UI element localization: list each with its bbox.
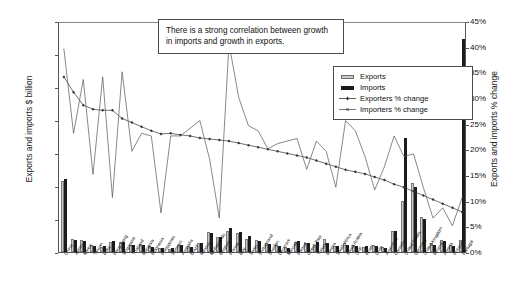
legend-label: Imports (360, 83, 385, 92)
plot-area (58, 22, 466, 253)
data-point-marker (169, 132, 172, 135)
importers-line-icon (339, 106, 356, 113)
data-point-marker (354, 170, 357, 173)
x-axis-labels: ChinaJapanKoreaTaiwanIndiaHong KongSinga… (58, 254, 466, 299)
data-point-marker (393, 183, 396, 186)
data-point-marker (208, 138, 211, 141)
exports-swatch-icon (339, 75, 356, 79)
correlation-note: There is a strong correlation between gr… (158, 19, 344, 54)
y-tickmark-right (466, 150, 469, 151)
y-tickmark-right (466, 22, 469, 23)
y-tickmark-right (466, 202, 469, 203)
lines-layer (59, 23, 465, 252)
data-point-marker (198, 136, 201, 139)
data-point-marker (160, 132, 163, 135)
data-point-marker (296, 154, 299, 157)
data-point-marker (315, 159, 318, 162)
legend-label: Exporters % change (360, 94, 428, 103)
legend-item-importers-change: Importers % change (339, 104, 467, 115)
data-point-marker (247, 144, 250, 147)
legend-label: Importers % change (360, 105, 428, 114)
y-tickmark-right (466, 48, 469, 49)
y-axis-left-title: Exports and imports $ billion (24, 44, 34, 214)
data-point-marker (451, 206, 454, 209)
data-point-marker (140, 125, 143, 128)
legend-label: Exports (360, 72, 386, 81)
chart-legend: Exports Imports Exporters % change Impor… (333, 66, 473, 120)
y-tick-right: 40% (470, 44, 504, 52)
legend-item-imports: Imports (339, 82, 467, 93)
y-tick-right: 25% (470, 121, 504, 129)
data-point-marker (92, 108, 95, 111)
data-point-marker (276, 150, 279, 153)
y-tickmark-right (466, 227, 469, 228)
chart-container: Exports and imports $ billion Exports an… (0, 0, 515, 299)
data-point-marker (189, 134, 192, 137)
data-point-marker (286, 152, 289, 155)
data-point-marker (422, 194, 425, 197)
y-tickmark-right (466, 125, 469, 126)
exporters-line-icon (339, 95, 356, 102)
data-point-marker (461, 210, 464, 213)
y-tick-right: 30% (470, 95, 504, 103)
data-point-marker (325, 162, 328, 165)
legend-item-exporters-change: Exporters % change (339, 93, 467, 104)
data-point-marker (334, 165, 337, 168)
data-point-marker (383, 179, 386, 182)
data-point-marker (402, 186, 405, 189)
y-tick-right: 5% (470, 223, 504, 231)
data-point-marker (432, 198, 435, 201)
data-point-marker (130, 121, 133, 124)
y-tick-right: 45% (470, 18, 504, 26)
data-point-marker (364, 172, 367, 175)
y-tick-right: 10% (470, 198, 504, 206)
legend-item-exports: Exports (339, 71, 467, 82)
data-point-marker (218, 139, 221, 142)
data-point-marker (441, 202, 444, 205)
data-point-marker (101, 109, 104, 112)
data-point-marker (412, 190, 415, 193)
y-tick-right: 0% (470, 249, 504, 257)
data-point-marker (373, 176, 376, 179)
data-point-marker (344, 168, 347, 171)
y-tick-right: 20% (470, 146, 504, 154)
imports-swatch-icon (339, 86, 356, 90)
y-tick-right: 15% (470, 172, 504, 180)
y-tick-right: 35% (470, 69, 504, 77)
data-point-marker (305, 156, 308, 159)
data-point-marker (150, 129, 153, 132)
y-tickmark-right (466, 176, 469, 177)
data-point-marker (228, 140, 231, 143)
data-point-marker (257, 146, 260, 149)
data-point-marker (237, 142, 240, 145)
